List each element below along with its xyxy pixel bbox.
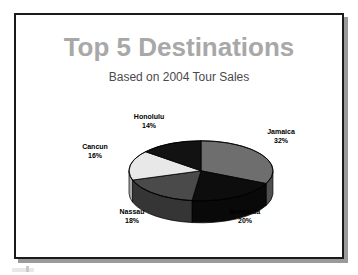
pie-chart: Honolulu 14% Jamaica 32% Bermuda 20% Nas… xyxy=(16,15,342,257)
presentation-slide: Top 5 Destinations Based on 2004 Tour Sa… xyxy=(14,13,344,259)
page-edge-artifact xyxy=(12,268,34,272)
slice-label-jamaica: Jamaica 32% xyxy=(248,127,314,145)
slice-label-honolulu: Honolulu 14% xyxy=(112,112,186,130)
slice-label-honolulu-name: Honolulu xyxy=(134,113,164,120)
slice-label-nassau: Nassau 18% xyxy=(100,207,164,225)
slice-label-nassau-name: Nassau xyxy=(120,208,145,215)
slice-label-cancun-value: 16% xyxy=(64,151,126,160)
slice-label-honolulu-value: 14% xyxy=(112,121,186,130)
slice-label-cancun-name: Cancun xyxy=(82,143,108,150)
slice-label-jamaica-value: 32% xyxy=(248,136,314,145)
page-edge-artifact-tick xyxy=(26,266,29,272)
slice-label-bermuda-name: Bermuda xyxy=(230,208,260,215)
slice-label-nassau-value: 18% xyxy=(100,216,164,225)
slice-label-bermuda: Bermuda 20% xyxy=(210,207,280,225)
slice-label-bermuda-value: 20% xyxy=(210,216,280,225)
slice-label-jamaica-name: Jamaica xyxy=(267,128,295,135)
slice-label-cancun: Cancun 16% xyxy=(64,142,126,160)
